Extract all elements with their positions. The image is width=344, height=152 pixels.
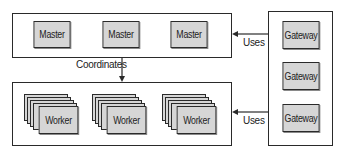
edge-label-coordinates: Coordinates xyxy=(76,59,127,70)
edges-layer xyxy=(0,0,344,152)
edge-label-uses-masters: Uses xyxy=(243,37,265,48)
edge-label-uses-workers: Uses xyxy=(243,115,265,126)
